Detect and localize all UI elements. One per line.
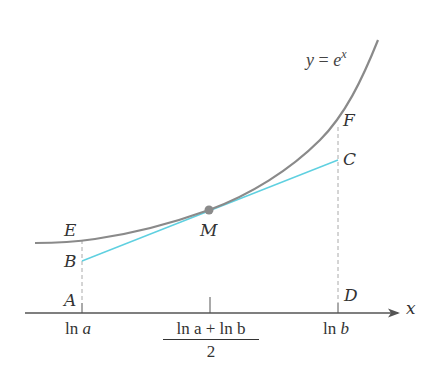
equation-exponent: x xyxy=(341,47,346,61)
exponential-diagram xyxy=(0,0,441,368)
point-label-e: E xyxy=(64,222,76,239)
tick-label-ln-b: ln b xyxy=(323,320,349,337)
equation-equals: = xyxy=(314,50,333,70)
point-label-f: F xyxy=(343,112,355,129)
tick-label-ln-b-var: b xyxy=(340,319,349,338)
point-label-b: B xyxy=(64,253,77,270)
point-label-m: M xyxy=(200,222,217,239)
midpoint-denominator: 2 xyxy=(163,340,259,360)
equation-base: e xyxy=(333,50,341,70)
tick-label-ln-a: ln a xyxy=(65,320,91,337)
point-m-dot xyxy=(205,206,214,215)
point-label-d: D xyxy=(344,287,358,304)
midpoint-numerator: ln a + ln b xyxy=(163,320,259,340)
axis-label-x: x xyxy=(406,300,416,317)
equation-lhs: y xyxy=(306,50,314,70)
point-label-c: C xyxy=(343,151,356,168)
tick-label-ln-a-var: a xyxy=(82,319,91,338)
tick-label-ln-a-fn: ln xyxy=(65,319,82,338)
tick-label-midpoint: ln a + ln b 2 xyxy=(163,320,259,360)
tick-label-ln-b-fn: ln xyxy=(323,319,340,338)
curve-equation: y = ex xyxy=(306,48,346,69)
point-label-a: A xyxy=(64,292,76,309)
